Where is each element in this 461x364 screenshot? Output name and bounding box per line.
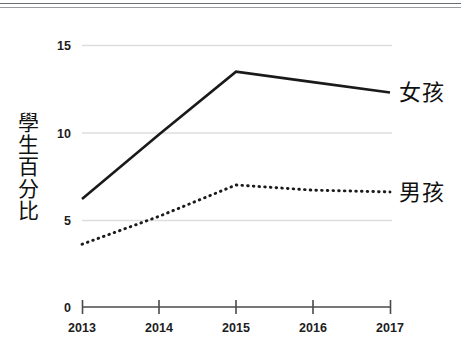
series-line-boys (82, 185, 390, 244)
line-chart-plot: 15 10 5 0 2013 2014 2015 2016 2017 (0, 0, 461, 364)
y-axis-title-char-1: 學 (14, 112, 42, 134)
y-axis-title-char-4: 分 (14, 178, 42, 200)
y-axis-title-char-5: 比 (14, 200, 42, 222)
series-label-girls: 女孩 (399, 74, 445, 106)
x-axis (82, 300, 391, 314)
x-tick-label-2013: 2013 (68, 321, 96, 335)
x-tick-label-2017: 2017 (376, 321, 404, 335)
y-tick-label-10: 10 (57, 127, 71, 141)
y-axis-title-char-2: 生 (14, 134, 42, 156)
x-tick-label-2016: 2016 (299, 321, 327, 335)
chart-figure: 15 10 5 0 2013 2014 2015 2016 2017 學 生 百… (0, 0, 461, 364)
x-tick-label-2014: 2014 (145, 321, 173, 335)
y-tick-label-5: 5 (64, 214, 71, 228)
y-axis-title: 學 生 百 分 比 (14, 112, 42, 222)
series-label-boys: 男孩 (399, 174, 445, 206)
series-line-girls (82, 72, 390, 199)
x-tick-label-2015: 2015 (222, 321, 250, 335)
y-tick-label-0: 0 (64, 301, 71, 315)
y-axis-title-char-3: 百 (14, 156, 42, 178)
y-tick-label-15: 15 (57, 39, 71, 53)
